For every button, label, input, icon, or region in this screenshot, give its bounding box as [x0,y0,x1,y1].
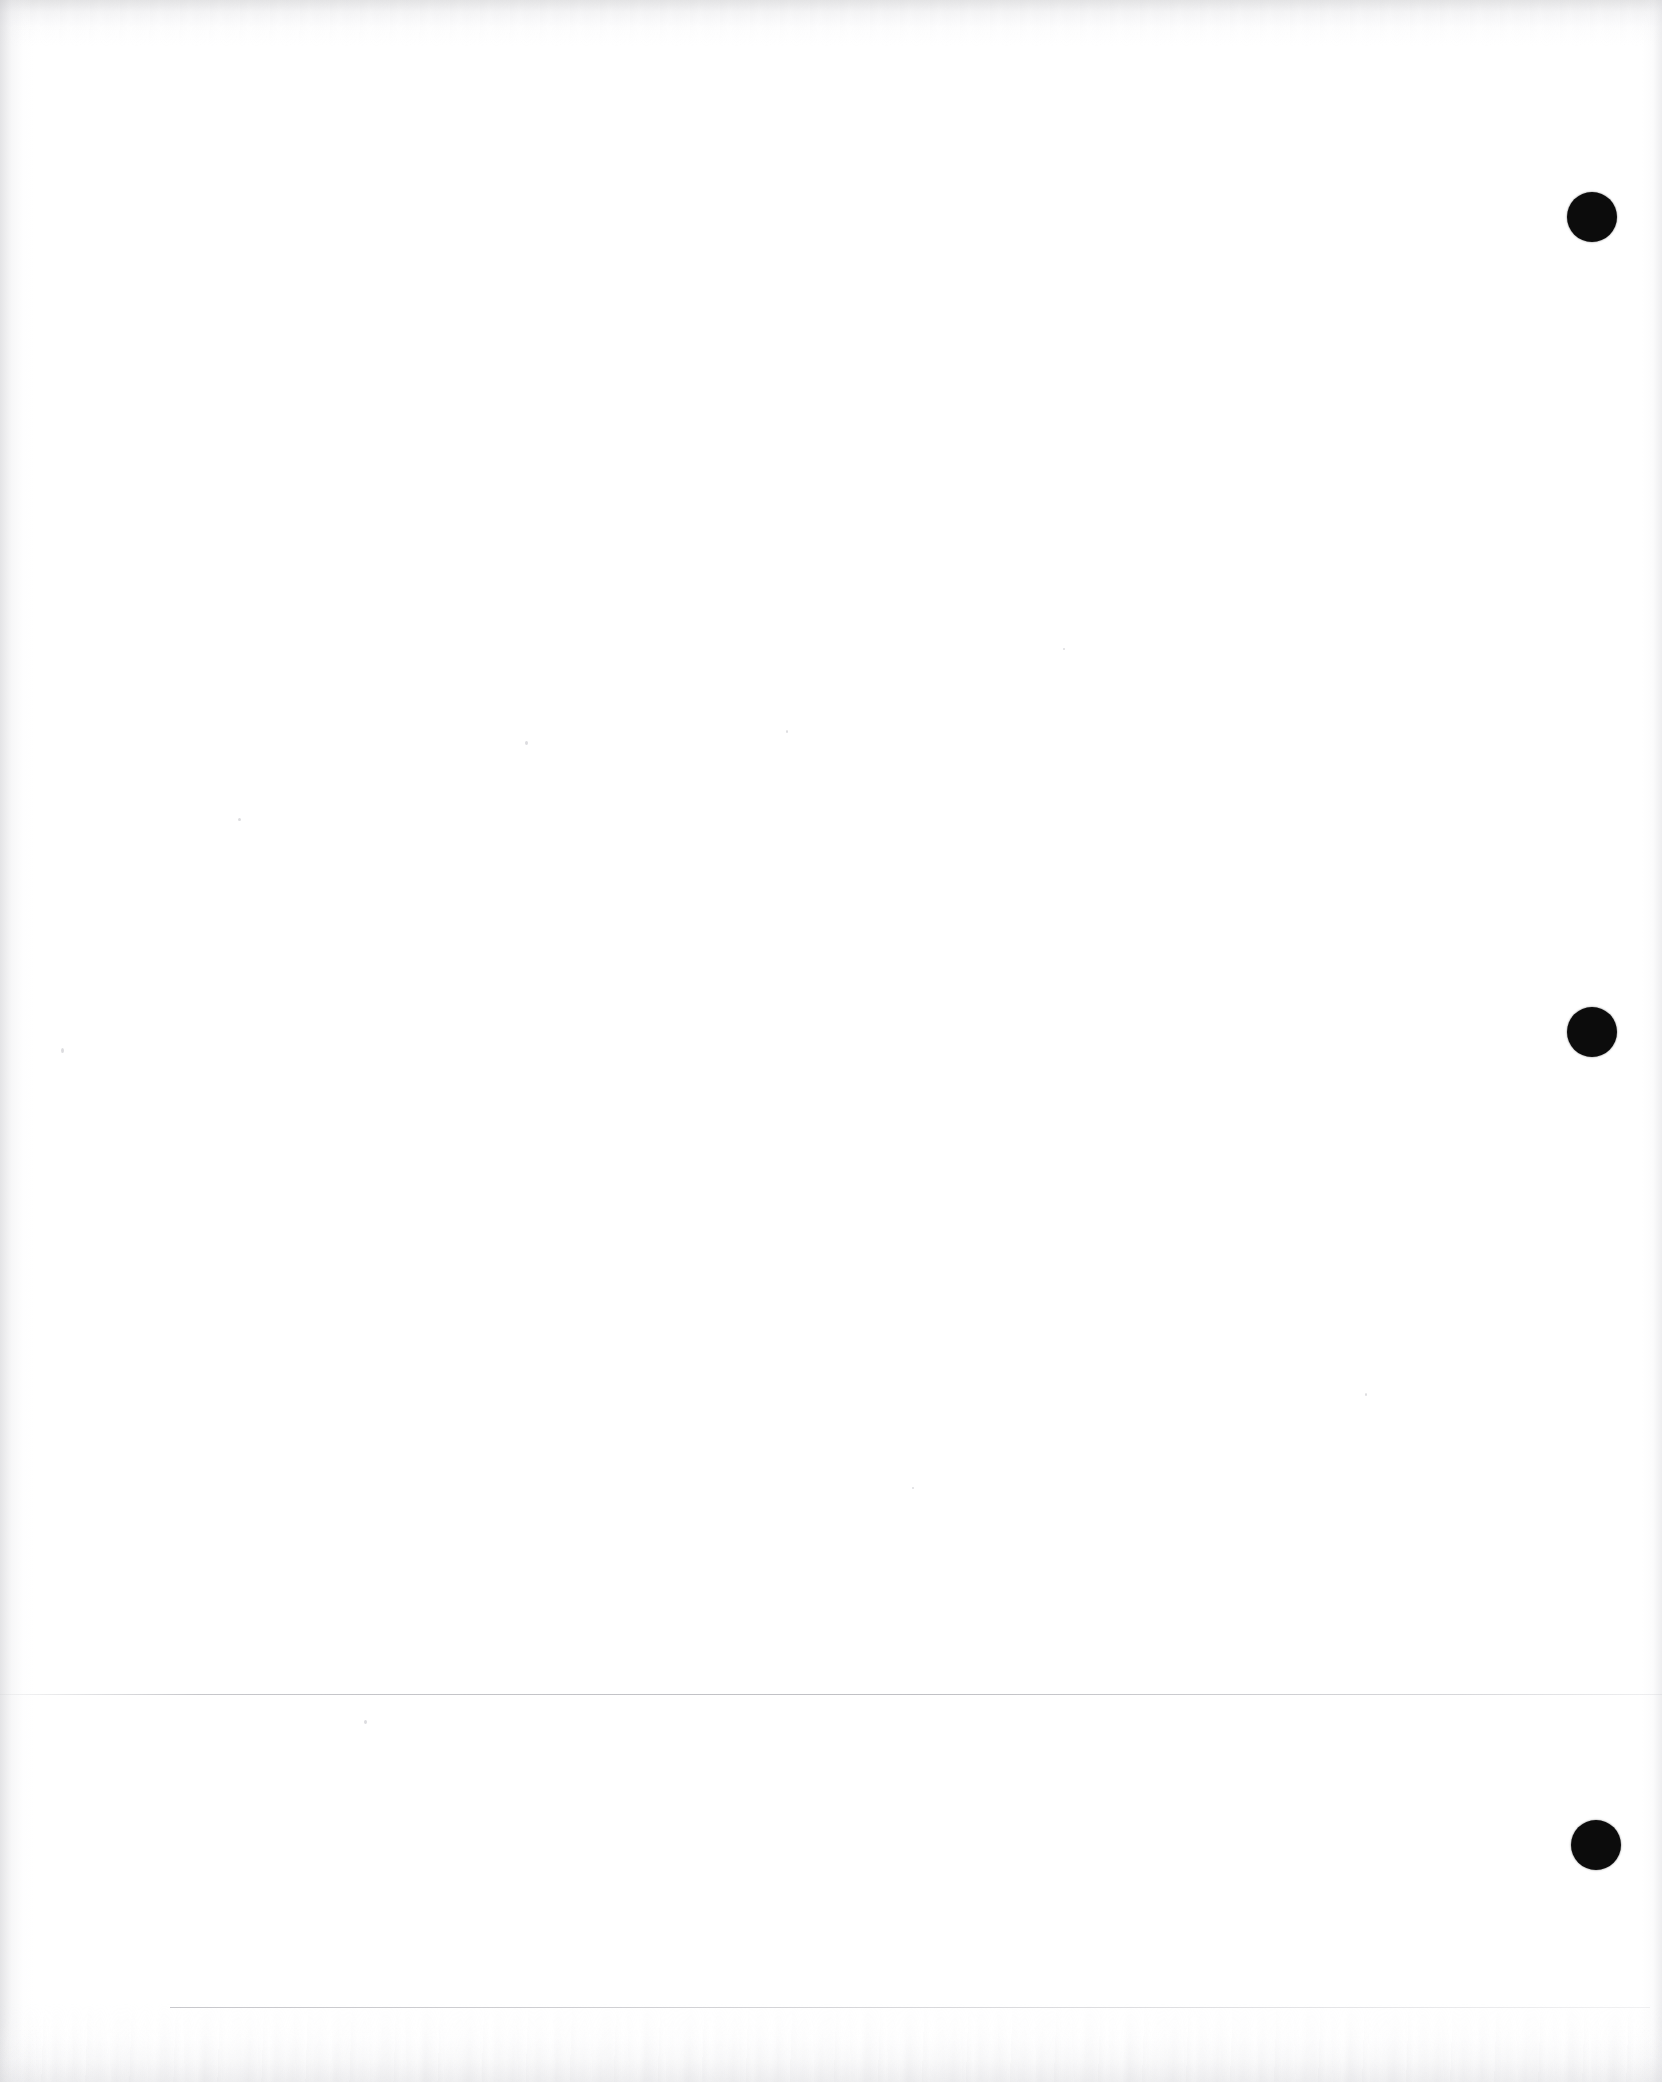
registration-dot-top [1567,192,1617,242]
scan-speck [525,741,528,745]
paper-surface [0,0,1662,2082]
scan-speck [1365,1393,1367,1396]
scan-speck [786,730,788,733]
scan-speck [61,1048,64,1053]
scanned-page [0,0,1662,2082]
horizontal-rule-lower [170,2007,1650,2008]
scan-speck [238,818,241,821]
scan-speck [1063,648,1065,650]
registration-dot-middle [1567,1007,1617,1057]
registration-dot-bottom [1571,1820,1621,1870]
scan-speck [912,1487,914,1489]
scan-speck [364,1720,367,1724]
horizontal-rule-upper [0,1694,1662,1695]
